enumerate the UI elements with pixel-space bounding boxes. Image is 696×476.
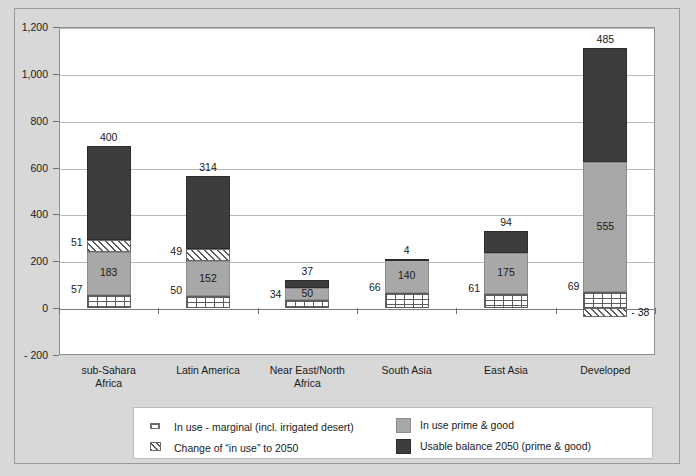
category-label-line: East Asia	[456, 364, 555, 377]
value-label-prime: 175	[484, 267, 528, 278]
value-label-prime: 152	[186, 273, 230, 284]
y-tick-mark	[53, 214, 59, 215]
value-label-marginal: 57	[63, 284, 83, 295]
x-axis-category-label: Developed	[556, 364, 655, 377]
y-axis-tick-label: 600	[4, 163, 48, 173]
y-axis-tick-label: 200	[4, 256, 48, 266]
x-axis-category-label: Near East/NorthAfrica	[258, 364, 357, 389]
x-tick-mark	[357, 308, 358, 314]
value-label-marginal: 34	[261, 289, 281, 300]
bar-segment-change-negative	[583, 308, 627, 317]
value-label-balance: 485	[583, 34, 627, 45]
x-axis-category-label: East Asia	[456, 364, 555, 377]
x-axis-category-label: South Asia	[357, 364, 456, 377]
chart-legend: In use - marginal (incl. irrigated deser…	[133, 407, 653, 459]
value-label-marginal: 66	[361, 282, 381, 293]
legend-swatch-marginal-icon	[150, 423, 160, 429]
y-axis-tick-label: 0	[4, 303, 48, 313]
y-axis-tick-label: - 200	[4, 350, 48, 360]
y-axis-tick-label: 800	[4, 116, 48, 126]
y-tick-mark	[53, 27, 59, 28]
value-label-balance: 314	[186, 162, 230, 173]
legend-label: Usable balance 2050 (prime & good)	[420, 440, 591, 452]
x-tick-mark	[258, 308, 259, 314]
value-label-prime: 183	[87, 267, 131, 278]
gridline	[60, 75, 654, 76]
y-axis-tick-label: 400	[4, 209, 48, 219]
category-label-line: Developed	[556, 364, 655, 377]
bar-segment-balance	[87, 146, 131, 240]
y-tick-mark	[53, 355, 59, 356]
bar-segment-balance	[583, 48, 627, 162]
x-axis-category-label: Latin America	[158, 364, 257, 377]
value-label-balance: 37	[285, 266, 329, 277]
y-axis-tick-label: 1,000	[4, 69, 48, 79]
x-axis-category-label: sub-SaharaAfrica	[59, 364, 158, 389]
plot-area	[59, 27, 655, 355]
gridline	[60, 28, 654, 29]
bar-segment-change	[87, 240, 131, 252]
y-tick-mark	[53, 168, 59, 169]
value-label-change: 51	[63, 237, 83, 248]
legend-label: In use prime & good	[420, 419, 514, 431]
x-tick-mark	[655, 308, 656, 314]
legend-swatch-balance-icon	[396, 439, 411, 454]
value-label-change: 49	[162, 246, 182, 257]
bar-segment-balance	[484, 231, 528, 253]
legend-swatch-prime-icon	[396, 418, 411, 433]
value-label-prime: 555	[583, 221, 627, 232]
x-tick-mark	[59, 308, 60, 314]
value-label-prime: 140	[385, 270, 429, 281]
value-label-change: - 38	[631, 307, 649, 318]
legend-label: In use - marginal (incl. irrigated deser…	[174, 421, 354, 433]
y-tick-mark	[53, 74, 59, 75]
gridline	[60, 262, 654, 263]
x-tick-mark	[556, 308, 557, 314]
category-label-line: sub-Sahara	[59, 364, 158, 377]
bar-segment-balance	[385, 259, 429, 261]
value-label-balance: 94	[484, 217, 528, 228]
category-label-line: Africa	[59, 377, 158, 390]
bar-segment-marginal	[385, 293, 429, 308]
bar-segment-marginal	[583, 292, 627, 308]
chart-figure: 1,2001,0008006004002000- 200 18340057511…	[14, 8, 680, 464]
legend-swatch-change-icon	[150, 442, 161, 451]
category-label-line: Latin America	[158, 364, 257, 377]
value-label-balance: 4	[385, 245, 429, 256]
value-label-balance: 400	[87, 132, 131, 143]
category-label-line: South Asia	[357, 364, 456, 377]
x-tick-mark	[158, 308, 159, 314]
bar-segment-change	[186, 249, 230, 260]
x-tick-mark	[456, 308, 457, 314]
value-label-marginal: 69	[559, 281, 579, 292]
bar-segment-marginal	[87, 295, 131, 308]
bar-segment-marginal	[186, 296, 230, 308]
value-label-marginal: 50	[162, 285, 182, 296]
value-label-marginal: 61	[460, 283, 480, 294]
bar-segment-marginal	[484, 294, 528, 308]
y-axis-tick-label: 1,200	[4, 22, 48, 32]
y-tick-mark	[53, 261, 59, 262]
y-tick-mark	[53, 121, 59, 122]
gridline	[60, 215, 654, 216]
bar-segment-balance	[186, 176, 230, 250]
category-label-line: Africa	[258, 377, 357, 390]
gridline	[60, 169, 654, 170]
bar-segment-marginal	[285, 300, 329, 308]
category-label-line: Near East/North	[258, 364, 357, 377]
legend-label: Change of “in use” to 2050	[174, 442, 298, 454]
gridline	[60, 122, 654, 123]
value-label-prime: 50	[285, 288, 329, 299]
